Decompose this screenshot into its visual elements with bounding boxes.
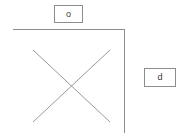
diagram-canvas: o d — [0, 0, 185, 140]
x-cross-mark — [33, 50, 110, 122]
l-shaped-frame — [13, 29, 124, 133]
label-box-right: d — [144, 68, 176, 87]
label-box-right-text: d — [157, 73, 162, 82]
label-box-top-text: o — [66, 9, 71, 18]
label-box-top: o — [54, 5, 83, 23]
